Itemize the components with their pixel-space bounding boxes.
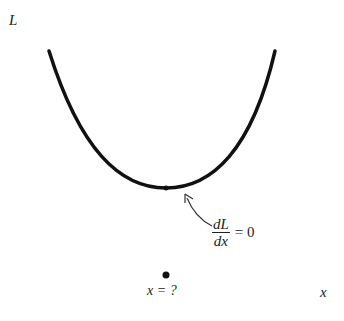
derivative-denominator: dx [214,233,228,249]
y-axis-label: L [9,12,17,29]
minimum-x-label: x = ? [147,283,177,299]
diagram-canvas [0,0,344,321]
derivative-equals: = 0 [235,224,255,241]
x-axis-label: x [320,284,327,301]
annotation-arrow [187,198,212,226]
derivative-numerator: dL [212,216,230,233]
x-minimum-dot [163,272,170,279]
derivative-annotation: dL dx = 0 [212,216,255,249]
loss-curve [49,51,275,188]
minimum-point [164,186,169,191]
